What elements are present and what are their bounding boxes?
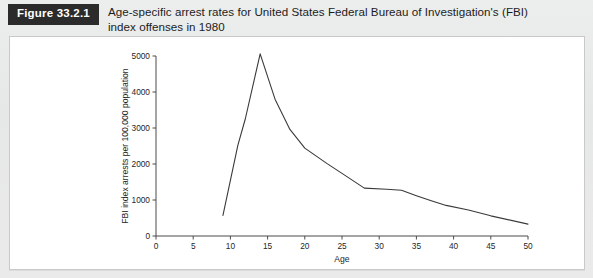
- x-tick-label: 10: [226, 241, 236, 251]
- figure-header: Figure 33.2.1 Age-specific arrest rates …: [8, 4, 585, 34]
- y-tick-label: 5000: [132, 51, 151, 61]
- x-tick-label: 35: [412, 241, 422, 251]
- data-series-line: [223, 54, 528, 224]
- x-tick-label: 5: [191, 241, 196, 251]
- x-tick-label: 40: [449, 241, 459, 251]
- plot-area: 0510152025303540455001000200030004000500…: [10, 37, 584, 269]
- y-tick-label: 2000: [132, 159, 151, 169]
- chart-panel: 0510152025303540455001000200030004000500…: [9, 36, 585, 270]
- figure-page: Figure 33.2.1 Age-specific arrest rates …: [0, 0, 593, 278]
- figure-number-badge: Figure 33.2.1: [8, 4, 99, 25]
- x-tick-label: 45: [486, 241, 496, 251]
- y-tick-label: 4000: [132, 87, 151, 97]
- x-tick-label: 0: [154, 241, 159, 251]
- x-tick-label: 30: [375, 241, 385, 251]
- y-tick-label: 3000: [132, 123, 151, 133]
- x-tick-label: 15: [263, 241, 273, 251]
- x-tick-label: 20: [300, 241, 310, 251]
- x-tick-label: 25: [337, 241, 347, 251]
- x-tick-label: 50: [523, 241, 533, 251]
- y-tick-label: 0: [145, 231, 150, 241]
- line-chart: 0510152025303540455001000200030004000500…: [10, 37, 584, 269]
- y-tick-label: 1000: [132, 195, 151, 205]
- x-axis-title: Age: [334, 254, 350, 264]
- y-axis-title: FBI index arrests per 100,000 population: [120, 68, 130, 223]
- figure-caption: Age-specific arrest rates for United Sta…: [108, 4, 546, 34]
